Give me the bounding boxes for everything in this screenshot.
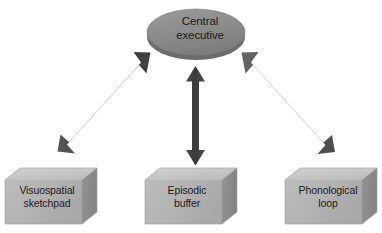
phonological-loop-top-face [285,168,377,180]
connector-central-to-visuospatial-arrow [58,52,151,154]
visuospatial-sketchpad-node[interactable] [5,168,97,224]
central-executive-node[interactable] [147,9,245,60]
episodic-buffer-node[interactable] [145,168,237,224]
episodic-buffer-front-face [145,180,222,224]
visuospatial-sketchpad-front-face [5,180,82,224]
working-memory-diagram: Central executive Visuospatial sketchpad… [0,0,382,233]
phonological-loop-front-face [285,180,362,224]
phonological-loop-node[interactable] [285,168,377,224]
connector-central-to-phonological-arrow [242,52,336,154]
episodic-buffer-top-face [145,168,237,180]
connector-central-to-episodic-arrow [186,66,205,166]
visuospatial-sketchpad-top-face [5,168,97,180]
diagram-canvas [0,0,382,233]
